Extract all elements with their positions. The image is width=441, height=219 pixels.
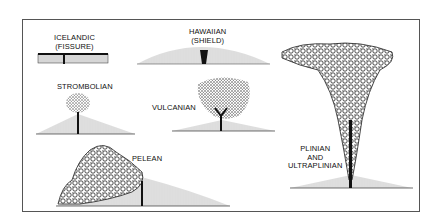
strombolian-figure — [36, 93, 135, 134]
label-pelean: PELEAN — [132, 155, 162, 164]
label-vulcanian: VULCANIAN — [152, 104, 196, 113]
label-strombolian: STROMBOLIAN — [57, 83, 113, 92]
hawaiian-shield-figure — [137, 47, 270, 64]
label-icelandic: ICELANDIC (FISSURE) — [54, 34, 95, 51]
label-plinian: PLINIAN AND ULTRAPLINIAN — [288, 145, 342, 171]
icelandic-fissure-figure — [38, 53, 108, 64]
label-hawaiian: HAWAIIAN (SHIELD) — [189, 28, 226, 45]
